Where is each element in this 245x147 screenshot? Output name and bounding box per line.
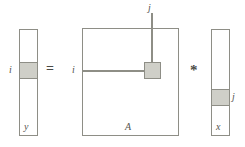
matrix-row-indicator-line <box>82 70 152 72</box>
matrix-a-outline <box>82 28 179 136</box>
matrix-row-index-label: i <box>72 65 75 75</box>
y-vector-index-label: i <box>9 65 12 75</box>
matrix-vector-product-diagram: i y = i j A * j x <box>0 0 245 147</box>
multiply-operator: * <box>190 63 198 78</box>
y-vector-name-label: y <box>24 122 28 132</box>
y-vector-outline <box>19 29 38 136</box>
x-vector-highlighted-cell <box>211 89 230 106</box>
equals-operator: = <box>46 62 54 76</box>
y-vector-highlighted-cell <box>19 62 38 79</box>
x-vector-name-label: x <box>216 122 220 132</box>
matrix-name-label: A <box>125 122 131 132</box>
matrix-highlighted-cell <box>144 62 161 79</box>
x-vector-outline <box>211 29 230 136</box>
matrix-column-index-label: j <box>148 3 151 13</box>
x-vector-index-label: j <box>232 92 235 102</box>
matrix-column-indicator-line-extension <box>151 13 153 29</box>
